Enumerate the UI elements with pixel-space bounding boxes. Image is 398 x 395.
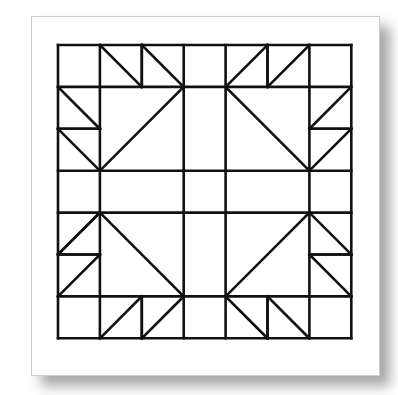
quilt-lines [58,45,351,338]
diagonal-line [58,213,100,255]
diagonal-line [100,296,142,338]
diagonal-line [58,129,100,171]
diagonal-line [100,87,184,171]
diagonal-line [309,87,351,129]
diagonal-line [309,129,351,171]
quilt-block-diagram [0,0,398,395]
diagonal-line [268,45,310,87]
diagonal-line [309,255,351,297]
diagonal-line [309,213,351,255]
diagonal-line [226,87,310,171]
diagonal-line [226,296,268,338]
diagonal-line [100,45,142,87]
diagonal-line [142,296,184,338]
diagonal-line [100,213,184,297]
diagonal-line [58,255,100,297]
diagonal-line [142,45,184,87]
diagonal-line [226,213,310,297]
diagonal-line [226,45,268,87]
diagonal-line [268,296,310,338]
diagonal-line [58,87,100,129]
